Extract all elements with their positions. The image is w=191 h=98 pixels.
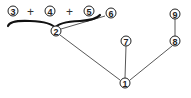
svg-text:9: 9 bbox=[172, 10, 177, 20]
plus-operator-1: + bbox=[27, 5, 34, 19]
node-2: 2 bbox=[51, 26, 61, 37]
node-9: 9 bbox=[170, 9, 180, 20]
plus-operator-2: + bbox=[66, 5, 73, 19]
node-4: 4 bbox=[45, 6, 55, 17]
svg-text:7: 7 bbox=[123, 37, 128, 47]
node-1: 1 bbox=[120, 78, 130, 89]
node-8: 8 bbox=[170, 36, 180, 47]
svg-text:5: 5 bbox=[86, 7, 91, 17]
svg-text:3: 3 bbox=[10, 7, 15, 17]
node-7: 7 bbox=[121, 36, 131, 47]
svg-text:8: 8 bbox=[172, 37, 177, 47]
svg-text:1: 1 bbox=[122, 79, 127, 89]
svg-text:6: 6 bbox=[108, 9, 113, 19]
node-5: 5 bbox=[84, 6, 94, 17]
edge-8-1 bbox=[130, 46, 172, 80]
edge-7-1 bbox=[125, 46, 126, 78]
tree-diagram: + + 3 4 5 6 2 7 9 8 1 bbox=[0, 0, 191, 98]
node-3: 3 bbox=[8, 6, 18, 17]
node-6: 6 bbox=[106, 8, 116, 19]
svg-text:4: 4 bbox=[47, 7, 52, 17]
svg-text:2: 2 bbox=[53, 27, 58, 37]
edge-2-1 bbox=[60, 35, 120, 80]
edges bbox=[60, 16, 175, 80]
